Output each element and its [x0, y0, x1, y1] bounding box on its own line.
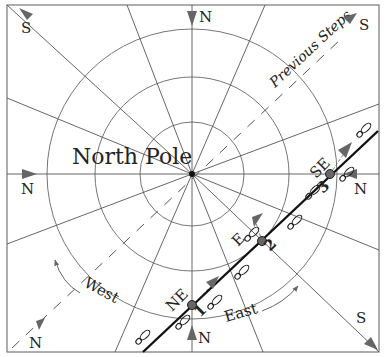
footprint-icon	[134, 329, 151, 346]
edge-label-left: N	[21, 180, 34, 198]
arrow-icon	[36, 318, 45, 330]
north-pole-diagram: Previous Steps North Pole S N S N N N N …	[0, 0, 386, 357]
edge-label-top-right: S	[359, 16, 369, 34]
path-point-2-number: 2	[260, 235, 280, 255]
path-point-2-direction: E	[228, 229, 248, 249]
west-label: West	[81, 274, 122, 307]
arrow-icon	[338, 142, 352, 158]
west-arc-arrow	[55, 260, 80, 293]
footprint-icon	[355, 122, 372, 139]
edge-label-bottom-right: S	[356, 309, 366, 327]
north-pole-point	[189, 171, 195, 177]
edge-label-bottom-left: N	[29, 334, 42, 352]
footprint-icon	[174, 314, 191, 331]
edge-label-top: N	[199, 8, 212, 26]
north-pole-label: North Pole	[72, 144, 192, 169]
previous-steps-label: Previous Steps	[265, 7, 354, 91]
edge-label-right: N	[354, 180, 367, 198]
arrow-icon	[187, 11, 197, 26]
east-label: East	[222, 299, 259, 326]
arrow-icon	[187, 325, 197, 340]
edge-label-bottom: N	[198, 329, 211, 347]
edge-label-top-left: S	[21, 19, 31, 37]
arrow-icon	[364, 337, 378, 350]
footprint-icon	[206, 294, 223, 311]
arrow-icon	[252, 213, 263, 227]
arrow-icon	[22, 169, 37, 179]
